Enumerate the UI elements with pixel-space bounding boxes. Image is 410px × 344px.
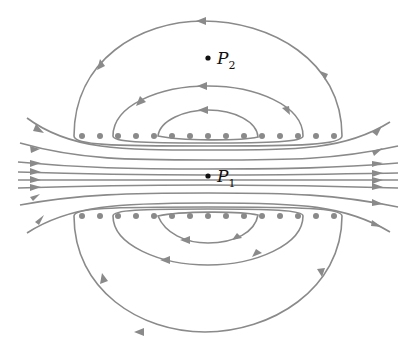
point-p2-label: P [216, 48, 229, 68]
point-p1-marker [205, 173, 210, 178]
point-p2-subscript: 2 [228, 59, 235, 72]
upper-wire-row [79, 133, 337, 139]
upper-loops [74, 17, 342, 146]
point-p2-marker [205, 55, 210, 60]
field-line [20, 193, 398, 207]
field-line [18, 162, 398, 169]
left-arrows [30, 124, 44, 225]
point-p2: P2 [205, 48, 235, 72]
magnetic-field-diagram: P2 P1 [0, 0, 410, 344]
point-p1-label: P [216, 166, 229, 186]
field-line [18, 185, 398, 188]
point-p1-subscript: 1 [228, 177, 235, 190]
lower-wire-row [79, 213, 337, 219]
svg-text:P2: P2 [216, 48, 235, 72]
right-arrows [371, 126, 383, 227]
lower-loops [74, 207, 342, 336]
